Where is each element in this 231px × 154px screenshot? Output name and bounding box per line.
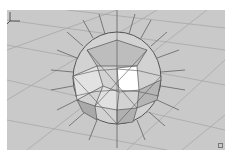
3d-viewport[interactable]: [7, 10, 225, 150]
axis-tripod-icon: [7, 10, 21, 24]
scene-render: [7, 10, 225, 150]
resize-corner-icon[interactable]: [218, 143, 223, 148]
geosphere[interactable]: [73, 32, 161, 124]
